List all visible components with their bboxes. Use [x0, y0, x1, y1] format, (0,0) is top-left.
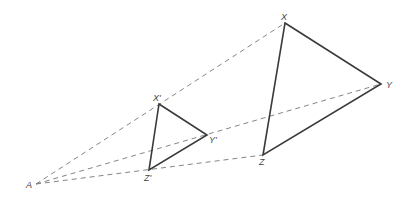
label-x: X — [280, 12, 288, 22]
label-z: Z — [258, 157, 265, 167]
label-y: Y — [386, 80, 393, 90]
label-x-prime: X' — [152, 93, 161, 103]
label-y-prime: Y' — [209, 135, 217, 145]
ray-a-x — [36, 23, 285, 184]
triangle-x-prime-y-prime-z-prime — [149, 104, 207, 170]
label-z-prime: Z' — [143, 173, 151, 183]
triangle-xyz — [263, 23, 381, 155]
ray-a-y — [36, 84, 381, 184]
dilation-diagram: A X' Y' Z' X Y Z — [0, 0, 413, 199]
label-center-a: A — [25, 180, 32, 190]
